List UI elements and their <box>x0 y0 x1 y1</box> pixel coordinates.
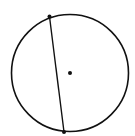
chord-endpoint-top <box>48 15 52 19</box>
chord-endpoint-bottom <box>62 130 66 134</box>
background <box>0 0 135 136</box>
circle-chord-diagram <box>0 0 135 136</box>
center-point <box>68 71 72 75</box>
